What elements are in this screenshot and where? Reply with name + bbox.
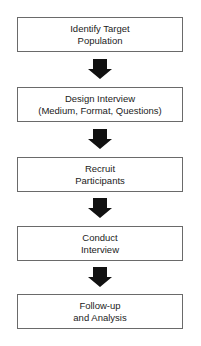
step-follow-up-and-analysis: Follow-up and Analysis: [17, 294, 183, 329]
step-label-line1: Identify Target: [70, 23, 130, 35]
step-label-line1: Follow-up: [79, 300, 120, 312]
down-arrow-icon: [88, 198, 112, 218]
step-label-line1: Conduct: [82, 232, 117, 244]
step-label-line2: and Analysis: [73, 312, 126, 324]
step-identify-target-population: Identify Target Population: [17, 17, 183, 52]
step-label-line2: Population: [78, 35, 123, 47]
down-arrow-icon: [88, 129, 112, 149]
step-label-line1: Design Interview: [65, 93, 135, 105]
step-design-interview: Design Interview (Medium, Format, Questi…: [17, 87, 183, 122]
step-label-line1: Recruit: [85, 163, 115, 175]
step-recruit-participants: Recruit Participants: [17, 157, 183, 192]
step-conduct-interview: Conduct Interview: [17, 226, 183, 261]
down-arrow-icon: [88, 59, 112, 79]
down-arrow-icon: [88, 267, 112, 287]
step-label-line2: Participants: [75, 175, 125, 187]
step-label-line2: (Medium, Format, Questions): [38, 105, 162, 117]
step-label-line2: Interview: [81, 244, 119, 256]
